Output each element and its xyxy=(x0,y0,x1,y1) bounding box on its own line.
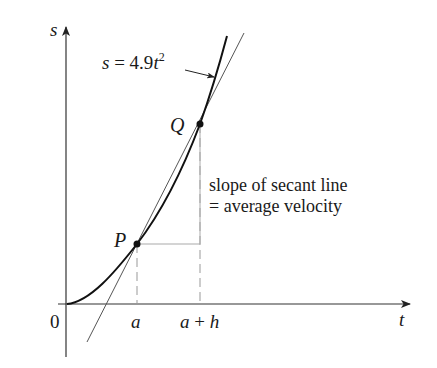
point-p-label: P xyxy=(113,229,126,251)
tick-a-plus-h-label: a + h xyxy=(180,311,219,332)
curve-label-arrow xyxy=(185,70,214,77)
s-axis-label: s xyxy=(50,19,57,40)
tick-a-plus-h-a: a xyxy=(180,311,190,332)
t-axis-label: t xyxy=(399,309,405,330)
tick-a-label: a xyxy=(131,311,141,332)
point-q-label: Q xyxy=(170,114,185,136)
point-p xyxy=(134,241,141,248)
tick-a-plus-h-h: h xyxy=(210,311,220,332)
point-q xyxy=(197,121,204,128)
curve-equation-exp: 2 xyxy=(159,50,165,64)
secant-line-diagram: s t 0 s = 4.9t2 Q P a a + h slope of sec… xyxy=(0,0,437,368)
tick-a-plus-h-plus: + xyxy=(190,311,210,332)
curve-equation-prefix: = 4.9 xyxy=(109,52,153,73)
annotation-line-2: = average velocity xyxy=(209,196,342,216)
origin-label: 0 xyxy=(50,311,60,332)
curve-equation-s: s xyxy=(102,52,109,73)
annotation-line-1: slope of secant line xyxy=(209,175,347,195)
curve-equation: s = 4.9t2 xyxy=(102,50,165,73)
parabola-curve xyxy=(67,36,227,304)
